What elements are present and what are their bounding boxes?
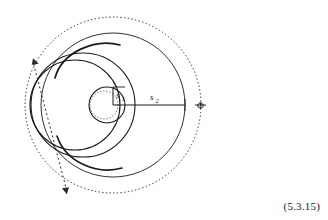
s1-label-subscript: 1: [122, 95, 125, 102]
figure-container: s 1 s 2 Φ (5.3.15): [0, 0, 328, 220]
equation-number: (5.3.15): [284, 200, 320, 212]
geometry-diagram-svg: s 1 s 2 Φ: [0, 0, 328, 220]
medium-offset-circle: [30, 60, 120, 150]
phi-label: Φ: [197, 101, 204, 111]
lower-involute-arc: [57, 136, 122, 170]
s1-label: s: [116, 90, 120, 100]
s2-label: s: [150, 92, 154, 102]
dashed-axis-arrowhead-bottom: [62, 186, 71, 195]
s2-label-subscript: 2: [156, 97, 160, 104]
